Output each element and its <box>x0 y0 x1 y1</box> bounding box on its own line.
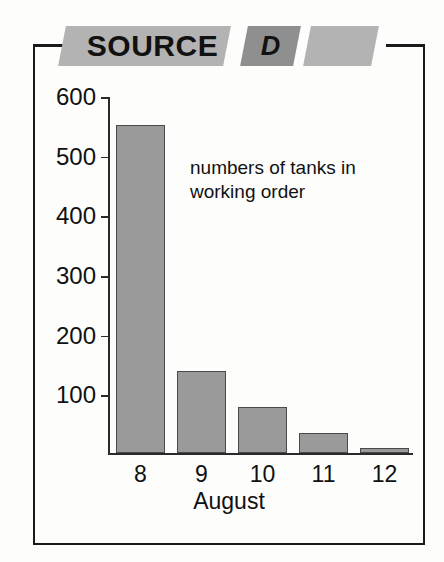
y-tick-label: 300 <box>56 262 96 290</box>
bar-10 <box>238 407 287 453</box>
x-axis-title: August <box>33 488 425 515</box>
y-tick-mark <box>101 276 108 278</box>
bar-9 <box>177 371 226 453</box>
source-banner: SOURCE D <box>62 26 392 66</box>
y-tick-label: 500 <box>56 143 96 171</box>
y-tick-label: 100 <box>56 381 96 409</box>
y-tick-mark <box>101 395 108 397</box>
banner-title-label: SOURCE <box>70 26 235 66</box>
y-tick-mark <box>101 336 108 338</box>
bar-8 <box>116 125 165 453</box>
x-axis-line <box>108 453 413 455</box>
bar-12 <box>360 448 409 453</box>
x-tick-label: 8 <box>134 461 147 488</box>
y-tick-mark <box>101 97 108 99</box>
chart-annotation: numbers of tanks in working order <box>190 156 405 204</box>
plot-area: 100200300400500600 89101112 <box>108 97 413 455</box>
banner-letter-label: D <box>244 26 297 66</box>
banner-tail-shape <box>303 26 379 66</box>
bar-11 <box>299 433 348 453</box>
y-tick-label: 200 <box>56 322 96 350</box>
x-tick-label: 11 <box>312 461 336 488</box>
y-tick-label: 600 <box>56 83 96 111</box>
y-tick-label: 400 <box>56 202 96 230</box>
figure-root: SOURCE D 100200300400500600 89101112 num… <box>0 0 444 562</box>
y-tick-mark <box>101 157 108 159</box>
x-tick-label: 10 <box>250 461 276 488</box>
x-tick-label: 12 <box>372 461 398 488</box>
bar-series <box>110 97 413 453</box>
y-tick-mark <box>101 216 108 218</box>
x-tick-label: 9 <box>195 461 208 488</box>
banner-rule-left <box>33 44 63 46</box>
